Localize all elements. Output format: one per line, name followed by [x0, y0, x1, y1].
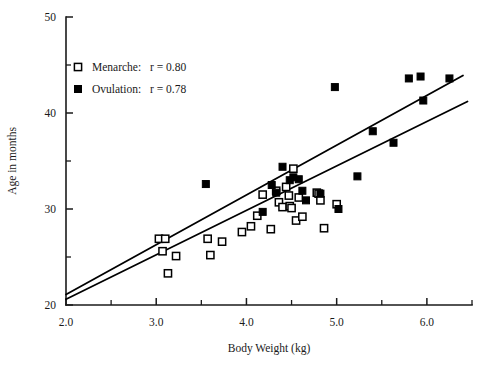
- data-point-ovulation: [202, 181, 209, 188]
- data-point-menarche: [283, 183, 290, 190]
- x-tick-label: 2.0: [59, 316, 74, 328]
- legend-label-ovulation: Ovulation:: [92, 83, 141, 95]
- data-point-menarche: [295, 194, 302, 201]
- plot-canvas: 203040502.03.04.05.06.0Body Weight (kg)A…: [0, 0, 485, 369]
- data-point-menarche: [267, 226, 274, 233]
- y-tick-label: 20: [45, 299, 57, 311]
- data-point-menarche: [172, 252, 179, 259]
- data-point-ovulation: [268, 182, 275, 189]
- data-point-ovulation: [417, 73, 424, 80]
- scatter-plot-figure: 203040502.03.04.05.06.0Body Weight (kg)A…: [0, 0, 485, 369]
- data-point-ovulation: [390, 139, 397, 146]
- data-point-menarche: [218, 238, 225, 245]
- x-axis-title: Body Weight (kg): [228, 342, 311, 355]
- data-point-menarche: [290, 165, 297, 172]
- x-tick-label: 4.0: [239, 316, 254, 328]
- legend-marker-ovulation: [75, 86, 82, 93]
- data-point-menarche: [288, 204, 295, 211]
- data-point-ovulation: [354, 173, 361, 180]
- data-point-ovulation: [299, 187, 306, 194]
- x-tick-label: 3.0: [149, 316, 164, 328]
- axis-labels: 203040502.03.04.05.06.0Body Weight (kg)A…: [6, 11, 434, 355]
- data-point-ovulation: [369, 128, 376, 135]
- data-point-menarche: [285, 192, 292, 199]
- data-point-ovulation: [317, 190, 324, 197]
- data-point-ovulation: [295, 176, 302, 183]
- legend-value-menarche: r = 0.80: [150, 61, 186, 73]
- data-point-ovulation: [273, 189, 280, 196]
- y-tick-label: 50: [45, 11, 57, 23]
- data-point-ovulation: [335, 206, 342, 213]
- x-tick-label: 6.0: [420, 316, 435, 328]
- data-point-menarche: [238, 228, 245, 235]
- data-point-ovulation: [259, 208, 266, 215]
- legend-value-ovulation: r = 0.78: [150, 83, 186, 95]
- data-point-menarche: [247, 223, 254, 230]
- data-point-ovulation: [302, 197, 309, 204]
- data-points: [155, 73, 453, 277]
- x-tick-label: 5.0: [329, 316, 344, 328]
- data-point-menarche: [259, 191, 266, 198]
- regression-line-ovulation: [66, 76, 463, 295]
- regression-lines: [66, 76, 467, 300]
- y-tick-label: 40: [45, 107, 57, 119]
- data-point-ovulation: [279, 163, 286, 170]
- legend-marker-menarche: [74, 63, 81, 70]
- data-point-menarche: [204, 235, 211, 242]
- data-point-ovulation: [331, 84, 338, 91]
- data-point-ovulation: [405, 75, 412, 82]
- y-tick-label: 30: [45, 203, 57, 215]
- data-point-menarche: [279, 203, 286, 210]
- data-point-menarche: [164, 270, 171, 277]
- data-point-menarche: [162, 235, 169, 242]
- y-axis-title: Age in months: [6, 127, 19, 195]
- data-point-menarche: [299, 213, 306, 220]
- data-point-menarche: [320, 225, 327, 232]
- regression-line-menarche: [66, 101, 467, 299]
- data-point-menarche: [317, 197, 324, 204]
- data-point-ovulation: [420, 97, 427, 104]
- data-point-ovulation: [446, 75, 453, 82]
- data-point-menarche: [159, 248, 166, 255]
- data-point-menarche: [207, 251, 214, 258]
- legend: Menarche:r = 0.80Ovulation:r = 0.78: [74, 61, 186, 95]
- legend-label-menarche: Menarche:: [92, 61, 141, 73]
